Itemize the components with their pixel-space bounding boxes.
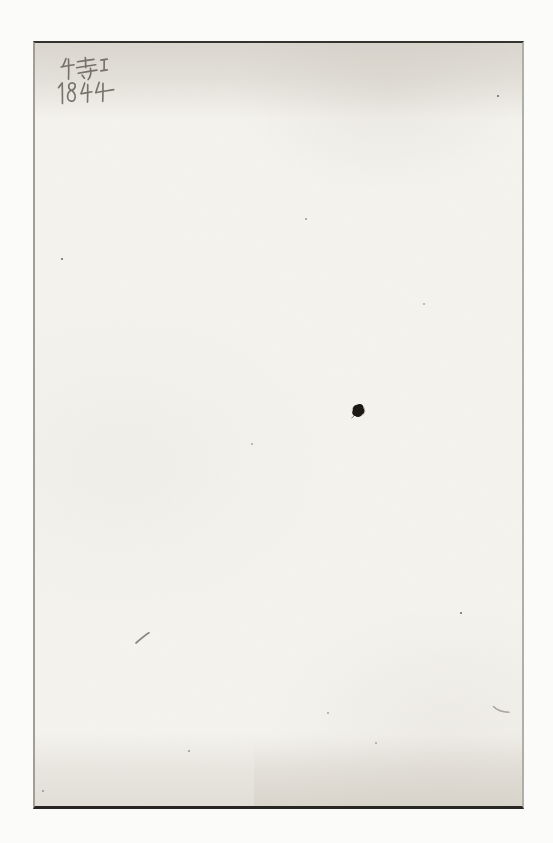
paper-speck (305, 218, 307, 220)
ink-blot (349, 401, 369, 423)
handwriting-strokes (54, 53, 122, 109)
paper-speck (42, 790, 44, 792)
paper-speck (327, 712, 329, 714)
paper-speck (61, 258, 63, 260)
scanned-page: 特1 1844 (33, 41, 524, 809)
pencil-slash-mark (134, 631, 152, 645)
paper-speck (375, 742, 377, 744)
inscription-call-number: 特1 1844 (54, 53, 122, 109)
paper-speck (251, 443, 253, 445)
bottom-discoloration-band (35, 732, 522, 806)
paper-grain-texture (35, 43, 522, 806)
paper-speck (460, 612, 462, 614)
paper-speck (188, 750, 190, 752)
scanner-background: 特1 1844 (0, 0, 553, 843)
paper-speck (423, 303, 425, 305)
pencil-tick-mark (492, 705, 512, 715)
paper-speck (497, 95, 499, 97)
